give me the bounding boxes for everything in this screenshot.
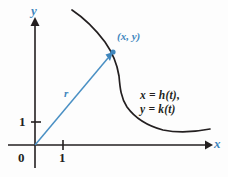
parametric-curve-figure: y x 1 1 0 (x, y) r x = h(t), y = k(t) bbox=[0, 0, 228, 177]
x-axis-label: x bbox=[214, 137, 221, 150]
figure-canvas bbox=[0, 0, 228, 177]
point-coordinates-label: (x, y) bbox=[117, 31, 140, 42]
vector-r-label: r bbox=[64, 88, 68, 99]
y-axis-label: y bbox=[31, 4, 37, 17]
arrow-up-icon bbox=[31, 17, 40, 26]
arrow-right-icon bbox=[205, 141, 213, 150]
origin-label: 0 bbox=[18, 151, 25, 164]
position-vector-line bbox=[35, 58, 108, 145]
x-axis-tick-label-1: 1 bbox=[59, 151, 66, 164]
equation-y-label: y = k(t) bbox=[140, 104, 176, 116]
curve-point-marker bbox=[110, 49, 115, 54]
y-axis-tick-label-1: 1 bbox=[19, 115, 26, 128]
equation-x-label: x = h(t), bbox=[140, 90, 180, 102]
